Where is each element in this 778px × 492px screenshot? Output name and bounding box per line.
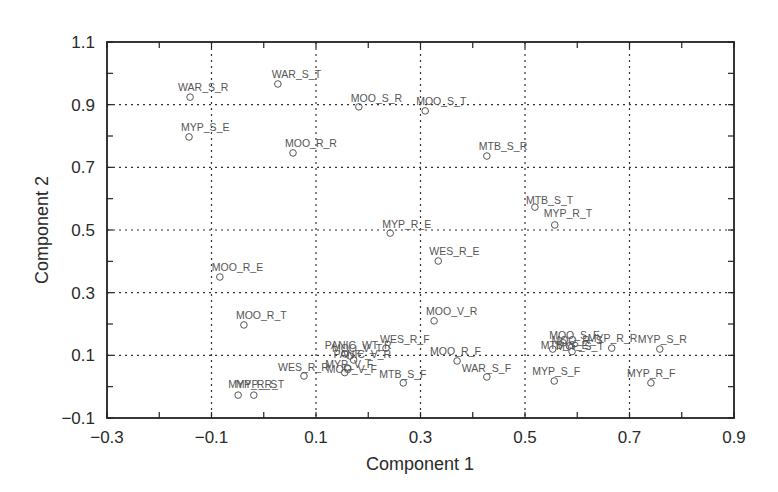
data-point: MYP_S_E xyxy=(181,121,229,140)
point-label: MOO_V_F xyxy=(327,363,377,375)
circle-marker-icon xyxy=(435,258,442,265)
data-point: MTB_S_F xyxy=(379,368,426,386)
circle-marker-icon xyxy=(422,108,429,115)
data-point: MYP_R_F xyxy=(627,367,675,386)
point-label: WAR_S_R xyxy=(178,81,229,93)
circle-marker-icon xyxy=(657,346,664,353)
circle-marker-icon xyxy=(454,358,461,365)
data-point: MOO_R_T xyxy=(236,309,287,328)
y-tick-label: 0.5 xyxy=(71,221,95,240)
circle-marker-icon xyxy=(356,104,363,111)
point-label: MTB_S_R xyxy=(479,140,528,152)
data-point: WAR_S_R xyxy=(178,81,229,100)
circle-marker-icon xyxy=(290,150,297,157)
point-label: MOO_R_F xyxy=(430,345,481,357)
point-label: MOO_V_R xyxy=(426,305,478,317)
x-axis-title: Component 1 xyxy=(366,454,474,474)
point-label: MTB_S_E xyxy=(541,339,589,351)
point-label: MYP_S_E xyxy=(181,121,229,133)
point-label: MTB_S_T xyxy=(526,194,574,206)
circle-marker-icon xyxy=(648,380,655,387)
circle-marker-icon xyxy=(217,274,224,281)
y-tick-label: 1.1 xyxy=(71,33,95,52)
x-tick-label: −0.3 xyxy=(90,428,124,447)
data-point: MYP_R_T xyxy=(544,207,593,228)
circle-marker-icon xyxy=(301,373,308,380)
point-label: MYP_S_R xyxy=(638,333,687,345)
y-tick-label: 0.1 xyxy=(71,346,95,365)
x-tick-label: 0.7 xyxy=(618,428,642,447)
y-axis-title: Component 2 xyxy=(32,176,52,284)
point-label: MYP_R_F xyxy=(627,367,675,379)
point-label: MOO_R_T xyxy=(236,309,287,321)
data-point: MOO_V_R xyxy=(426,305,478,324)
circle-marker-icon xyxy=(275,81,282,88)
point-label: MYP_R_T xyxy=(544,207,593,219)
data-point: MOO_R_E xyxy=(212,261,263,280)
circle-marker-icon xyxy=(608,345,615,352)
y-tick-label: 0.9 xyxy=(71,96,95,115)
point-label: MYP_R_E xyxy=(382,218,431,230)
point-label: MOO_S_R xyxy=(351,92,403,104)
data-point: MYP_R_E xyxy=(382,218,431,236)
data-point: MYP_S_R xyxy=(638,333,687,352)
data-points: WAR_S_RWAR_S_TMOO_S_RMOO_S_TMYP_S_EMOO_R… xyxy=(178,68,687,398)
y-tick-label: −0.1 xyxy=(61,409,95,428)
y-tick-label: 0.3 xyxy=(71,284,95,303)
circle-marker-icon xyxy=(551,378,558,385)
point-label: WES_R_E xyxy=(429,245,479,257)
point-label: MYP_R_R xyxy=(588,332,638,344)
point-label: MOO_R_R xyxy=(285,137,337,149)
data-point: MOO_V_F xyxy=(327,363,377,376)
circle-marker-icon xyxy=(387,230,394,237)
x-tick-label: −0.1 xyxy=(195,428,229,447)
circle-marker-icon xyxy=(187,94,194,101)
data-point: WES_R_R xyxy=(278,361,329,379)
data-point: WES_R_E xyxy=(429,245,479,264)
circle-marker-icon xyxy=(484,153,491,160)
data-point: MOO_S_R xyxy=(351,92,403,110)
data-point: MOO_R_R xyxy=(285,137,337,156)
x-tick-label: 0.9 xyxy=(722,428,746,447)
x-tick-label: 0.5 xyxy=(513,428,537,447)
data-point: WAR_S_F xyxy=(462,362,511,380)
point-label: MOO_S_T xyxy=(416,95,467,107)
circle-marker-icon xyxy=(186,134,193,141)
data-point: MTB_S_E xyxy=(541,339,589,352)
x-tick-label: 0.3 xyxy=(409,428,433,447)
data-point: WAR_S_T xyxy=(272,68,322,87)
point-label: WAR_S_F xyxy=(462,362,511,374)
data-point: MYP_S_F xyxy=(532,365,580,384)
data-point: MTB_S_R xyxy=(479,140,528,159)
point-label: MTB_S_F xyxy=(379,368,426,380)
point-label: MYP_R_T xyxy=(236,378,285,390)
y-axis-tick-labels: −0.10.10.30.50.70.91.1 xyxy=(61,33,95,428)
x-tick-label: 0.1 xyxy=(304,428,328,447)
point-label: WES_R_R xyxy=(278,361,329,373)
circle-marker-icon xyxy=(551,222,558,229)
x-axis-tick-labels: −0.3−0.10.10.30.50.70.9 xyxy=(90,428,746,447)
y-tick-label: 0.7 xyxy=(71,158,95,177)
point-label: MYP_S_F xyxy=(532,365,580,377)
circle-marker-icon xyxy=(484,374,491,381)
circle-marker-icon xyxy=(235,392,242,399)
point-label: WAR_S_T xyxy=(272,68,322,80)
scatter-chart: −0.3−0.10.10.30.50.70.9 −0.10.10.30.50.7… xyxy=(0,0,778,492)
circle-marker-icon xyxy=(251,392,258,399)
data-point: MYP_R_T xyxy=(236,378,285,398)
circle-marker-icon xyxy=(431,318,438,325)
data-point: MOO_S_T xyxy=(416,95,467,114)
circle-marker-icon xyxy=(241,322,248,329)
point-label: MOO_R_E xyxy=(212,261,263,273)
circle-marker-icon xyxy=(400,380,407,387)
